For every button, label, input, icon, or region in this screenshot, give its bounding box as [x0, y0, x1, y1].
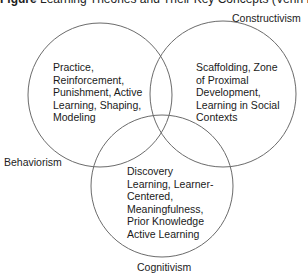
- cognitivism-contents: Discovery Learning, Learner- Centered, M…: [127, 165, 213, 241]
- behaviorism-contents: Practice, Reinforcement, Punishment, Act…: [53, 61, 142, 124]
- behaviorism-label: Behaviorism: [4, 156, 62, 169]
- cognitivism-label: Cognitivism: [137, 261, 191, 274]
- constructivism-contents: Scaffolding, Zone of Proximal Developmen…: [196, 61, 279, 124]
- constructivism-label: Constructivism: [232, 12, 301, 25]
